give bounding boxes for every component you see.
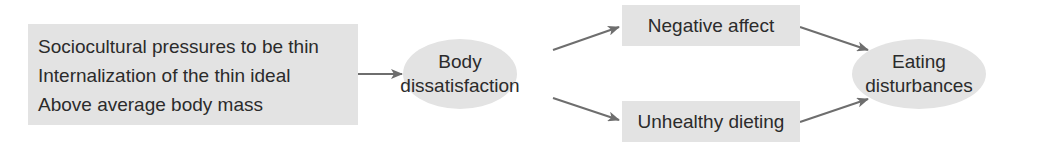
- arrow-body-to-negative: [553, 27, 619, 50]
- risk-factor-internalization: Internalization of the thin ideal: [38, 61, 358, 90]
- negative-affect-label: Negative affect: [648, 15, 774, 37]
- risk-factors-box: Sociocultural pressures to be thin Inter…: [28, 24, 358, 125]
- risk-factor-body-mass: Above average body mass: [38, 90, 358, 119]
- eating-disturbances-line1: Eating: [892, 50, 946, 74]
- negative-affect-node: Negative affect: [622, 5, 800, 46]
- body-dissatisfaction-line1: Body: [438, 50, 481, 74]
- unhealthy-dieting-label: Unhealthy dieting: [638, 111, 785, 133]
- eating-disturbances-node: Eating disturbances: [852, 39, 986, 109]
- arrow-dieting-to-eating: [800, 99, 868, 122]
- body-dissatisfaction-line2: dissatisfaction: [400, 74, 519, 98]
- unhealthy-dieting-node: Unhealthy dieting: [622, 101, 800, 142]
- body-dissatisfaction-node: Body dissatisfaction: [403, 39, 517, 109]
- eating-disturbances-line2: disturbances: [865, 74, 973, 98]
- risk-factor-sociocultural: Sociocultural pressures to be thin: [38, 32, 358, 61]
- arrow-body-to-dieting: [553, 98, 619, 120]
- arrow-negative-to-eating: [800, 27, 868, 50]
